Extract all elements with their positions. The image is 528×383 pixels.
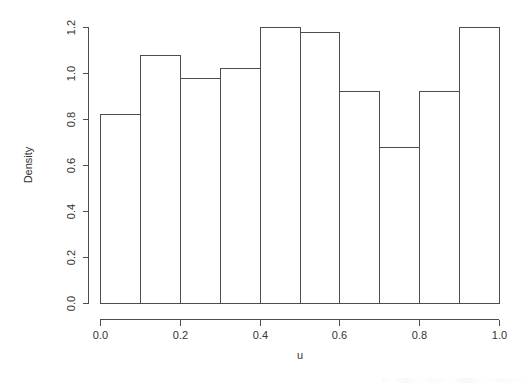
x-axis-tick-label: 0.8 <box>412 329 427 341</box>
y-axis-title: Density <box>22 146 34 183</box>
x-axis-tick-label: 0.2 <box>173 329 188 341</box>
x-axis-tick-label: 0.4 <box>253 329 268 341</box>
x-axis-tick-label: 0.0 <box>93 329 108 341</box>
x-axis-tick-label: 1.0 <box>492 329 507 341</box>
y-axis-tick-label: 0.0 <box>65 296 77 311</box>
histogram-bar <box>221 69 261 304</box>
histogram-bar <box>301 33 340 304</box>
x-axis-tick-label: 0.6 <box>332 329 347 341</box>
x-axis-title: u <box>297 349 303 361</box>
histogram-bar <box>101 115 141 304</box>
histogram-bar <box>460 28 500 304</box>
histogram-bar <box>141 56 181 304</box>
histogram-bar <box>420 92 460 304</box>
plot-canvas: 0.00.20.40.60.81.01.2 0.00.20.40.60.81.0… <box>0 0 528 383</box>
y-axis-tick-label: 0.2 <box>65 250 77 265</box>
y-axis-tick-label: 0.8 <box>65 112 77 127</box>
histogram-bar <box>261 28 301 304</box>
y-axis-tick-label: 0.6 <box>65 158 77 173</box>
y-axis-tick-label: 1.2 <box>65 20 77 35</box>
histogram-bar <box>380 148 420 304</box>
histogram-bar <box>181 79 221 304</box>
histogram-plot: 0.00.20.40.60.81.01.2 0.00.20.40.60.81.0… <box>0 0 528 383</box>
histogram-bar <box>340 92 380 304</box>
y-axis-tick-label: 1.0 <box>65 66 77 81</box>
y-axis-tick-label: 0.4 <box>65 204 77 219</box>
